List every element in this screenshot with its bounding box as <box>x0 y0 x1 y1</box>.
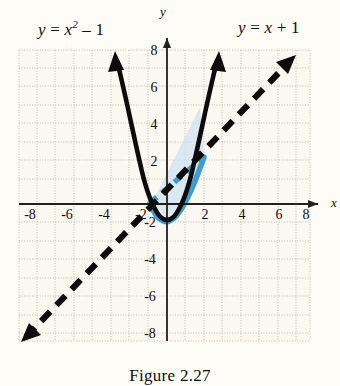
line-equals: = <box>250 18 260 37</box>
line-base: x <box>264 18 272 37</box>
line-operator: + <box>277 18 287 37</box>
y-tick-label--8: -8 <box>139 326 161 342</box>
x-tick-label--8: -8 <box>19 207 41 223</box>
figure-caption: Figure 2.27 <box>0 366 340 386</box>
equation-label-parabola: y = x2 – 1 <box>38 18 104 40</box>
x-tick-label--6: -6 <box>56 207 78 223</box>
parabola-exponent: 2 <box>72 18 78 30</box>
y-tick-label-8: 8 <box>143 43 165 59</box>
y-tick-label-4: 4 <box>143 117 165 133</box>
y-axis-label: y <box>160 4 166 20</box>
y-tick-label--4: -4 <box>139 252 161 268</box>
parabola-constant: 1 <box>96 20 105 39</box>
x-tick-label-2: 2 <box>194 207 216 223</box>
y-tick-label-6: 6 <box>143 80 165 96</box>
x-tick-label-4: 4 <box>231 207 253 223</box>
parabola-lhs: y <box>38 20 46 39</box>
equation-label-line: y = x + 1 <box>238 18 300 38</box>
x-tick-label-6: 6 <box>268 207 290 223</box>
y-tick-label-2: 2 <box>143 154 165 170</box>
y-tick-label--2: -2 <box>139 215 161 231</box>
x-tick-label--4: -4 <box>93 207 115 223</box>
y-tick-label--6: -6 <box>139 289 161 305</box>
parabola-equals: = <box>50 20 60 39</box>
x-axis-label: x <box>331 195 337 211</box>
line-constant: 1 <box>291 18 300 37</box>
parabola-operator: – <box>82 20 91 39</box>
line-lhs: y <box>238 18 246 37</box>
x-tick-label-8: 8 <box>295 207 317 223</box>
